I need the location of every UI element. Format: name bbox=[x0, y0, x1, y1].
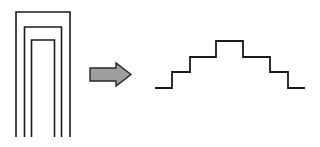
diagram-svg bbox=[0, 0, 320, 147]
diagram-canvas bbox=[0, 0, 320, 147]
canvas-background bbox=[0, 0, 320, 147]
